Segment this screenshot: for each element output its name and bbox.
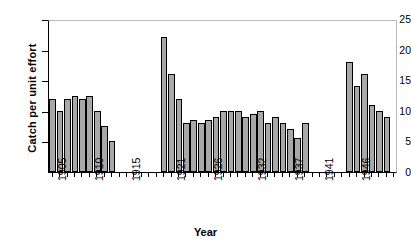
- bar: [205, 120, 212, 172]
- bar: [346, 62, 353, 172]
- bar: [198, 123, 205, 172]
- bar: [72, 96, 79, 173]
- x-axis-tick-mark: [111, 173, 112, 177]
- bar: [384, 117, 391, 172]
- x-axis-tick-label: 1937: [294, 158, 305, 181]
- x-axis-tick-mark: [230, 173, 231, 177]
- x-axis-tick-label: 1910: [94, 158, 105, 181]
- x-axis-tick-mark: [319, 173, 320, 177]
- x-axis-tick-label: 1921: [176, 158, 187, 181]
- x-axis-tick-label: 1905: [57, 158, 68, 181]
- x-axis-tick-mark: [274, 173, 275, 177]
- bar: [272, 117, 279, 172]
- x-axis-tick-mark: [156, 173, 157, 177]
- bar-chart: Catch per unit effort 0510152025 1905191…: [0, 0, 411, 245]
- bar: [190, 120, 197, 172]
- x-axis-tick-label: 1946: [361, 158, 372, 181]
- x-axis-tick-mark: [119, 173, 120, 177]
- x-axis-tick-mark: [163, 173, 164, 177]
- x-axis-tick-mark: [341, 173, 342, 177]
- x-axis-tick-mark: [393, 173, 394, 177]
- x-axis-tick-mark: [356, 173, 357, 177]
- x-axis-tick-label: 1926: [213, 158, 224, 181]
- x-axis-tick-mark: [200, 173, 201, 177]
- y-axis-title: Catch per unit effort: [26, 18, 38, 178]
- x-axis-tick-mark: [52, 173, 53, 177]
- x-axis-tick-mark: [386, 173, 387, 177]
- x-axis-tick-label: 1932: [257, 158, 268, 181]
- plot-area: [48, 20, 397, 173]
- x-axis-title: Year: [0, 226, 411, 238]
- x-axis-tick-mark: [245, 173, 246, 177]
- x-axis-tick-mark: [349, 173, 350, 177]
- x-axis-tick-mark: [148, 173, 149, 177]
- bar: [168, 74, 175, 172]
- bar: [235, 111, 242, 172]
- x-axis-tick-label: 1915: [131, 158, 142, 181]
- x-axis-tick-mark: [252, 173, 253, 177]
- x-axis-tick-mark: [74, 173, 75, 177]
- bar: [79, 99, 86, 172]
- x-axis-tick-mark: [208, 173, 209, 177]
- x-axis-tick-mark: [193, 173, 194, 177]
- bar: [376, 111, 383, 172]
- bar: [280, 123, 287, 172]
- x-axis-tick-label: 1941: [324, 158, 335, 181]
- x-axis-tick-mark: [171, 173, 172, 177]
- x-axis-tick-mark: [81, 173, 82, 177]
- bar-series: [49, 21, 396, 172]
- bar: [242, 117, 249, 172]
- x-axis-tick-mark: [237, 173, 238, 177]
- bar: [228, 111, 235, 172]
- x-axis-tick-mark: [312, 173, 313, 177]
- x-axis-tick-mark: [126, 173, 127, 177]
- x-axis-tick-mark: [289, 173, 290, 177]
- bar: [109, 141, 116, 172]
- bar: [161, 37, 168, 172]
- x-axis-tick-mark: [89, 173, 90, 177]
- x-axis-tick-mark: [282, 173, 283, 177]
- x-axis-tick-mark: [378, 173, 379, 177]
